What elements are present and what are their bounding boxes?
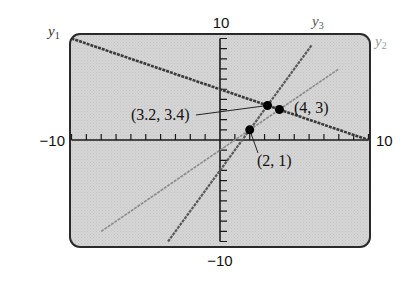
intersection-point xyxy=(245,125,254,134)
point-label-3.2-3.4: (3.2, 3.4) xyxy=(131,106,190,124)
y-max-label: 10 xyxy=(213,14,230,31)
series-label-y3: y3 xyxy=(310,13,324,31)
point-label-2-1: (2, 1) xyxy=(257,152,292,170)
intersection-point xyxy=(263,101,272,110)
series-label-y1: y1 xyxy=(46,23,60,41)
point-label-4-3: (4, 3) xyxy=(294,99,329,117)
intersection-point xyxy=(275,105,284,114)
graphing-calculator-screen: 10 −10 −10 10 y1 y3 y2 (3.2, 3.4) (4, 3)… xyxy=(0,0,410,290)
y-min-label: −10 xyxy=(207,252,232,269)
x-min-label: −10 xyxy=(40,132,65,149)
x-max-label: 10 xyxy=(376,132,393,149)
series-label-y2: y2 xyxy=(373,33,387,51)
